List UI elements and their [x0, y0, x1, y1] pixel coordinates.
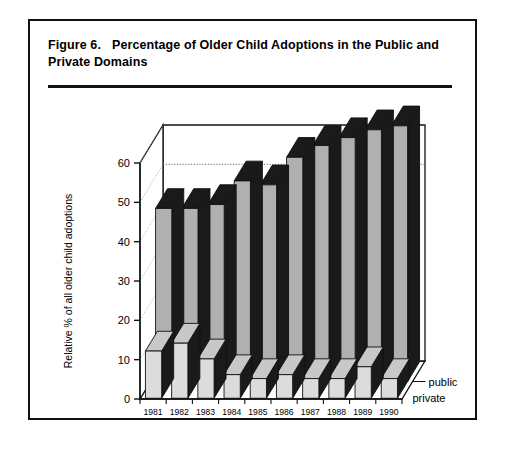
y-tick-label-50: 50 — [118, 196, 130, 208]
x-tick-label-1983: 1983 — [196, 407, 215, 416]
series-label-public: public — [429, 376, 458, 388]
x-tick-label-1988: 1988 — [327, 407, 346, 416]
title-divider — [48, 85, 452, 88]
figure-title-text: Percentage of Older Child Adoptions in t… — [48, 38, 439, 69]
x-tick-label-1990: 1990 — [379, 407, 398, 416]
title-block: Figure 6.Percentage of Older Child Adopt… — [48, 37, 452, 72]
bar-public-1988 — [339, 118, 367, 382]
bar-side — [303, 138, 315, 382]
x-tick-label-1982: 1982 — [170, 407, 189, 416]
figure-title: Figure 6.Percentage of Older Child Adopt… — [48, 37, 452, 72]
y-tick-label-40: 40 — [118, 236, 130, 248]
bar-side — [408, 106, 420, 381]
y-tick-label-60: 60 — [118, 157, 130, 169]
bar-chart-3d: 0102030405060Relative % of all older chi… — [30, 91, 475, 416]
bar-side — [250, 161, 262, 381]
bar-public-1984 — [234, 161, 262, 381]
bar-public-1990 — [391, 106, 419, 381]
x-tick-label-1987: 1987 — [301, 407, 320, 416]
y-tick-label-30: 30 — [118, 275, 130, 287]
bar-public-1986 — [287, 138, 315, 382]
bar-front — [329, 379, 345, 399]
bar-front — [145, 351, 161, 398]
y-axis-title: Relative % of all older child adoptions — [62, 194, 74, 369]
figure-frame: Figure 6.Percentage of Older Child Adopt… — [28, 19, 477, 420]
bar-public-1989 — [365, 110, 393, 381]
bar-side — [277, 165, 289, 381]
y-tick-label-10: 10 — [118, 354, 130, 366]
bar-side — [355, 118, 367, 382]
figure-number: Figure 6. — [48, 38, 101, 52]
bar-front — [303, 379, 319, 399]
y-tick-label-20: 20 — [118, 314, 130, 326]
bar-side — [329, 126, 341, 382]
bar-front — [250, 379, 266, 399]
chart-area: 0102030405060Relative % of all older chi… — [30, 91, 475, 416]
y-tick-label-0: 0 — [124, 393, 130, 405]
bar-public-1987 — [313, 126, 341, 382]
x-tick-label-1985: 1985 — [248, 407, 267, 416]
x-tick-label-1984: 1984 — [222, 407, 241, 416]
bar-public-1985 — [260, 165, 288, 381]
x-tick-label-1989: 1989 — [353, 407, 372, 416]
series-label-private: private — [412, 392, 445, 404]
bar-side — [381, 110, 393, 381]
bar-front — [381, 379, 397, 399]
x-tick-label-1981: 1981 — [144, 407, 163, 416]
x-tick-label-1986: 1986 — [275, 407, 294, 416]
